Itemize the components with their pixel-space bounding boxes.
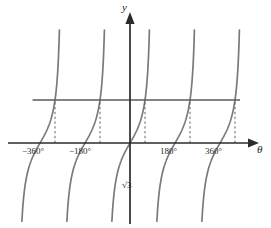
tangent-branch-3 bbox=[157, 30, 195, 221]
y-axis-arrowhead bbox=[125, 12, 134, 24]
x-tick-label-360: 360° bbox=[205, 146, 222, 156]
y-axis-label: y bbox=[122, 1, 127, 13]
theta-axis-label: θ bbox=[257, 143, 262, 155]
sqrt3-level-label: √3 bbox=[122, 180, 131, 190]
tangent-branch-4 bbox=[202, 30, 240, 221]
dashed-guide-group bbox=[55, 100, 235, 143]
x-tick-label-minus180: −180° bbox=[69, 146, 91, 156]
axis-group bbox=[8, 12, 259, 224]
x-tick-label-180: 180° bbox=[160, 146, 177, 156]
tangent-graph-figure: y θ −360° −180° 180° 360° √3 bbox=[0, 0, 271, 228]
tangent-branch-1 bbox=[67, 30, 105, 221]
tangent-branch-0 bbox=[22, 30, 60, 221]
x-tick-label-minus360: −360° bbox=[22, 146, 44, 156]
plot-canvas bbox=[0, 0, 271, 228]
